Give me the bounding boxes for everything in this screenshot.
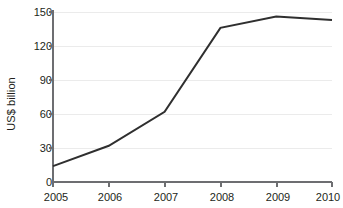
x-axis-tick-labels: 2005 2006 2007 2008 2009 2010 (0, 0, 343, 208)
x-tick-label-2005: 2005 (44, 192, 68, 203)
x-tick-label-2007: 2007 (154, 192, 178, 203)
line-chart-figure: US$ billion 150 120 90 60 30 0 (0, 0, 343, 208)
x-tick-label-2009: 2009 (266, 192, 290, 203)
x-tick-label-2008: 2008 (210, 192, 234, 203)
x-tick-label-2010: 2010 (316, 192, 340, 203)
x-tick-label-2006: 2006 (98, 192, 122, 203)
